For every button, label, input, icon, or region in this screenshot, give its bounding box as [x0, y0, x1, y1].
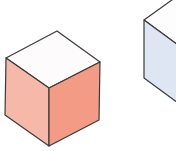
blue-cube — [144, 0, 176, 103]
red-cube — [5, 31, 100, 146]
cubes-diagram — [0, 0, 176, 151]
